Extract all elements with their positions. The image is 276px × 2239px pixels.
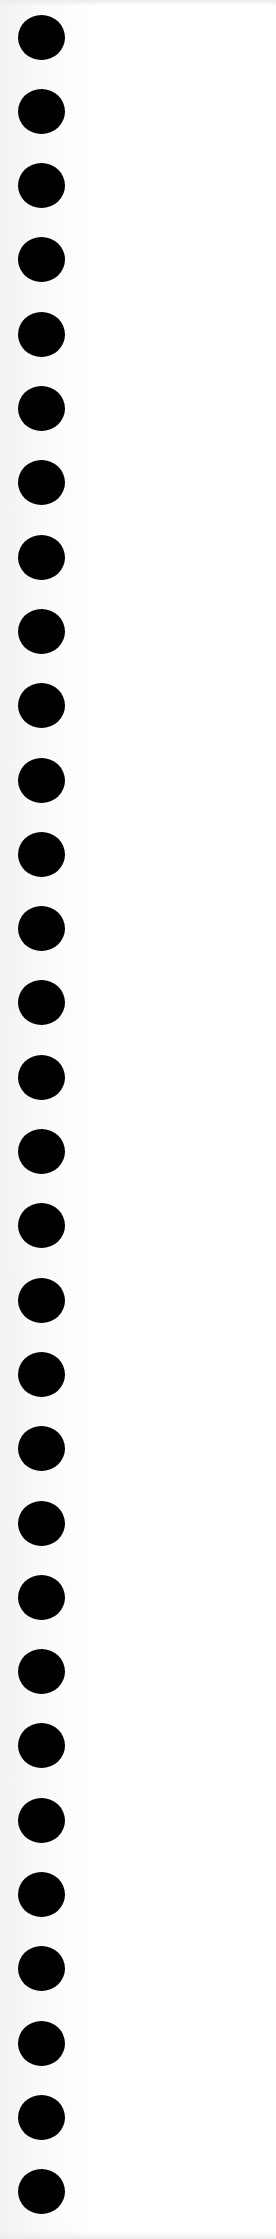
punch-hole [18,1501,65,1546]
punch-hole [18,758,65,803]
punch-hole [18,1946,65,1991]
punch-hole [18,609,65,654]
punch-hole [18,89,65,134]
punch-hole [18,386,65,431]
punch-hole [18,1649,65,1694]
punch-hole [18,15,65,60]
punch-hole [18,2021,65,2066]
punch-hole [18,2169,65,2214]
punch-hole [18,2095,65,2140]
punch-hole [18,1723,65,1768]
punch-hole [18,1278,65,1323]
punch-hole [18,460,65,505]
punch-hole [18,1203,65,1248]
punched-paper-sheet [0,0,276,2239]
punch-hole [18,535,65,580]
punch-hole [18,832,65,877]
punch-hole-column [0,0,90,2239]
punch-hole [18,163,65,208]
punch-hole [18,1575,65,1620]
punch-hole [18,1129,65,1174]
punch-hole [18,1055,65,1100]
punch-hole [18,1872,65,1917]
punch-hole [18,1798,65,1843]
punch-hole [18,1426,65,1471]
punch-hole [18,980,65,1025]
punch-hole [18,1352,65,1397]
punch-hole [18,312,65,357]
punch-hole [18,237,65,282]
punch-hole [18,683,65,728]
punch-hole [18,906,65,951]
